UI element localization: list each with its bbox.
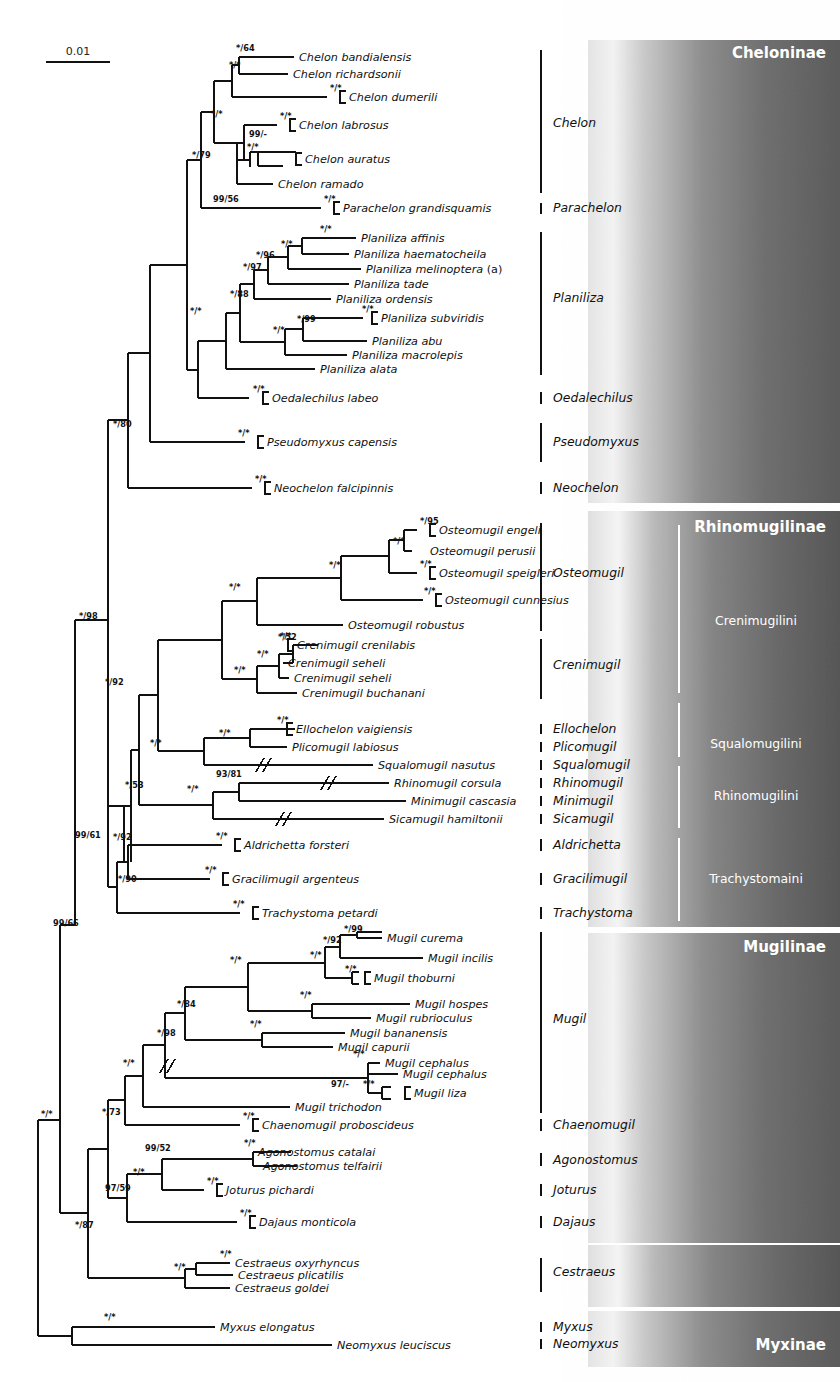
support-value: 99/52 (145, 1143, 171, 1153)
taxon-label: Gracilimugil argenteus (232, 873, 359, 886)
taxon-label: Chelon dumerili (349, 91, 438, 104)
genus-label: Aldrichetta (552, 837, 621, 852)
support-value: */* (219, 728, 231, 738)
taxon-label: Parachelon grandisquamis (343, 202, 492, 215)
support-value: */* (229, 582, 241, 592)
panel-labels-group: Cheloninae Rhinomugilinae Mugilinae Myxi… (694, 44, 826, 1354)
support-value: */* (353, 1049, 365, 1059)
genus-label: Minimugil (553, 793, 614, 808)
support-value: */80 (113, 419, 132, 429)
tribe-label-crenimugilini: Crenimugilini (715, 613, 797, 628)
support-value: */* (150, 738, 162, 748)
taxon-label: Neochelon falcipinnis (274, 482, 393, 495)
taxon-label: Crenimugil seheli (294, 672, 392, 685)
taxon-label: Mugil liza (414, 1087, 467, 1100)
support-value: */* (244, 1138, 256, 1148)
taxon-label: Joturus pichardi (224, 1184, 315, 1197)
support-value: */* (324, 194, 336, 204)
genus-label: Dajaus (553, 1214, 596, 1229)
taxon-label: Mugil rubrioculus (376, 1012, 472, 1025)
taxon-label: Crenimugil buchanani (302, 687, 426, 700)
taxon-label: Cestraeus plicatilis (238, 1269, 344, 1282)
scale-bar-label: 0.01 (66, 45, 91, 58)
tip-bracket (296, 153, 302, 165)
genus-label: Oedalechilus (553, 390, 633, 405)
support-value: */88 (230, 289, 249, 299)
support-value: */92 (113, 832, 132, 842)
tip-bracket (405, 1087, 411, 1099)
taxon-label: Planiliza tade (354, 278, 429, 291)
support-value: */* (277, 715, 289, 725)
taxon-label: Myxus elongatus (220, 1321, 315, 1334)
taxon-label: Mugil trichodon (295, 1101, 382, 1114)
support-value: */* (420, 559, 432, 569)
taxon-label: Dajaus monticola (259, 1216, 356, 1229)
taxon-label: Sicamugil hamiltonii (389, 813, 504, 826)
taxon-label: Osteomugil robustus (348, 619, 465, 632)
tip-labels-group: Chelon bandialensisChelon richardsoniiCh… (217, 51, 569, 1352)
support-value: */* (187, 784, 199, 794)
support-value: */* (104, 1312, 116, 1322)
tip-bracket (365, 972, 371, 984)
taxon-label: Crenimugil seheli (288, 657, 386, 670)
taxon-label: Osteomugil speigleri (439, 567, 555, 580)
taxon-label: Mugil cephalus (403, 1068, 487, 1081)
support-value: */* (243, 1111, 255, 1121)
taxon-label: Aldrichetta forsteri (243, 839, 350, 852)
support-value: */* (247, 142, 259, 152)
taxon-label: Planiliza melinoptera (a) (366, 263, 502, 276)
support-value: */* (280, 111, 292, 121)
subfamily-label-myxinae: Myxinae (756, 1336, 827, 1354)
support-value: */* (190, 306, 202, 316)
support-value: */* (345, 964, 357, 974)
tip-bracket (258, 436, 264, 448)
support-value: */* (330, 83, 342, 93)
genus-label: Sicamugil (553, 811, 614, 826)
support-value: */99 (297, 314, 316, 324)
taxon-label: Planiliza affinis (361, 232, 445, 245)
genus-label: Chelon (553, 115, 596, 130)
taxon-label: Plicomugil labiosus (292, 741, 399, 754)
support-value: */64 (236, 43, 255, 53)
taxon-label: Ellochelon vaigiensis (296, 723, 413, 736)
support-value: */* (133, 1167, 145, 1177)
genus-label: Rhinomugil (553, 775, 624, 790)
genus-label: Crenimugil (553, 657, 621, 672)
taxon-label: Osteomugil engeli (439, 524, 542, 537)
taxon-label: Rhinomugil corsula (394, 777, 501, 790)
genus-label: Squalomugil (553, 757, 630, 772)
taxon-label: Squalomugil nasutus (378, 759, 495, 772)
support-value: */* (320, 224, 332, 234)
taxon-label: Oedalechilus labeo (272, 392, 379, 405)
support-value: */* (393, 536, 405, 546)
taxon-label: Neomyxus leuciscus (337, 1339, 451, 1352)
genus-label: Neomyxus (553, 1336, 619, 1351)
taxon-label: Trachystoma petardi (262, 907, 379, 920)
tribe-label-rhinomugilini: Rhinomugilini (714, 788, 799, 803)
support-value: */* (310, 950, 322, 960)
support-value: */* (216, 831, 228, 841)
taxon-label: Agonostomus catalai (257, 1146, 376, 1159)
taxon-label: Mugil incilis (428, 952, 493, 965)
genus-label: Parachelon (553, 200, 622, 215)
support-value: */84 (177, 999, 196, 1009)
taxon-label: Planiliza haematocheila (354, 248, 487, 261)
support-value: */* (229, 60, 241, 70)
clade-rhinomugilini (131, 695, 406, 819)
taxon-label: Planiliza abu (372, 335, 442, 348)
tree-layer: 0.01 (0, 0, 840, 1382)
tribe-label-squalomugilini: Squalomugilini (710, 736, 802, 751)
genus-label: Pseudomyxus (553, 434, 639, 449)
taxon-label: Crenimugil crenilabis (297, 639, 415, 652)
support-value: */* (211, 109, 223, 119)
tip-bracket (223, 873, 229, 885)
support-value: 99/66 (53, 918, 79, 928)
clade-cestraeus (60, 1149, 233, 1288)
scale-bar: 0.01 (46, 45, 110, 62)
subfamily-label-mugilinae: Mugilinae (743, 938, 826, 956)
support-value: 99/61 (75, 830, 101, 840)
support-value: */73 (102, 1107, 121, 1117)
genus-label: Joturus (550, 1182, 597, 1197)
support-value: */79 (192, 150, 211, 160)
support-value: 97/59 (105, 1183, 131, 1193)
